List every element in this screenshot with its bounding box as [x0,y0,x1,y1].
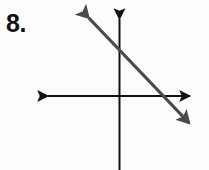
worksheet-graph-figure: 8. [0,0,209,170]
plotted-line [89,18,189,123]
coordinate-plane-graph [0,0,209,170]
problem-number-label: 8. [6,11,26,36]
